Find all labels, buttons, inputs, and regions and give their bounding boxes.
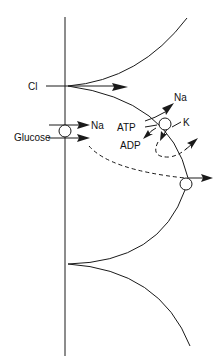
basolateral-glucose-carrier xyxy=(180,178,192,190)
k-line xyxy=(172,122,181,127)
cl-label: Cl xyxy=(28,81,37,92)
atp-label: ATP xyxy=(117,122,136,133)
glucose-na-carrier xyxy=(59,125,71,137)
lower-cell-boundary xyxy=(68,264,190,346)
na-cotransport-label: Na xyxy=(91,120,104,131)
upper-cell-boundary xyxy=(68,18,187,86)
cl-arrowhead xyxy=(112,83,128,91)
transport-diagram: Cl Na Glucose Na ATP ADP K xyxy=(0,0,221,361)
k-recycle-dashed xyxy=(156,142,187,157)
adp-label: ADP xyxy=(120,140,141,151)
k-label: K xyxy=(183,117,190,128)
na-pump-label: Na xyxy=(174,92,187,103)
na-k-pump xyxy=(159,118,171,130)
basolateral-membrane-lower xyxy=(68,190,185,264)
atp-line xyxy=(145,125,157,127)
glucose-label: Glucose xyxy=(14,132,51,143)
